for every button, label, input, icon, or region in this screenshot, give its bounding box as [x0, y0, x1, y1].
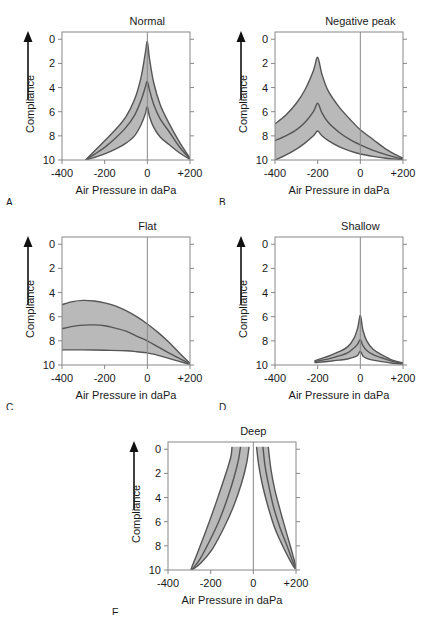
y-tick-label: 4 [262, 287, 268, 299]
curve-group [85, 42, 190, 160]
x-tick-label: 0 [357, 372, 363, 384]
y-axis-title: Compliance [237, 75, 249, 133]
x-axis-title: Air Pressure in daPa [289, 184, 391, 196]
y-tick-label: 6 [49, 311, 55, 323]
y-tick-label: 0 [262, 33, 268, 45]
y-tick-label: 0 [262, 238, 268, 250]
y-axis-title: Compliance [24, 280, 36, 338]
curve-group [191, 447, 297, 570]
x-axis-title: Air Pressure in daPa [289, 389, 391, 401]
x-tick-label: 0 [144, 167, 150, 179]
panel-b: 0246810-400-2000+200Air Pressure in daPa… [213, 0, 426, 205]
x-tick-label: +200 [178, 167, 203, 179]
x-tick-label: -200 [307, 167, 329, 179]
panel-title: Flat [138, 220, 156, 232]
x-tick-label: +200 [284, 577, 309, 589]
band-fill [85, 42, 190, 160]
y-tick-label: 8 [155, 540, 161, 552]
panel-title: Deep [240, 425, 266, 437]
x-tick-label: -200 [307, 372, 329, 384]
panel-letter: D [219, 402, 226, 410]
panel-letter: C [6, 402, 13, 410]
x-tick-label: -400 [264, 372, 286, 384]
panel-letter: A [6, 197, 13, 205]
panel-title: Negative peak [325, 15, 396, 27]
y-tick-label: 0 [155, 443, 161, 455]
y-tick-label: 0 [49, 238, 55, 250]
y-tick-label: 8 [262, 130, 268, 142]
x-tick-label: -200 [94, 372, 116, 384]
y-tick-label: 10 [43, 359, 55, 371]
y-tick-label: 4 [262, 82, 268, 94]
x-tick-label: 0 [144, 372, 150, 384]
x-tick-label: -400 [264, 167, 286, 179]
x-tick-label: -200 [200, 577, 222, 589]
x-tick-label: 0 [250, 577, 256, 589]
y-tick-label: 6 [262, 311, 268, 323]
y-tick-label: 2 [49, 57, 55, 69]
y-tick-label: 4 [49, 287, 55, 299]
y-tick-label: 10 [256, 154, 268, 166]
y-axis-title: Compliance [130, 485, 142, 543]
x-tick-label: -400 [51, 372, 73, 384]
y-tick-label: 8 [262, 335, 268, 347]
band-fill [257, 447, 297, 569]
x-tick-label: +200 [391, 167, 416, 179]
x-tick-label: -400 [157, 577, 179, 589]
x-axis-title: Air Pressure in daPa [76, 184, 178, 196]
panel-letter: E [112, 607, 119, 615]
panel-title: Shallow [341, 220, 380, 232]
x-axis-title: Air Pressure in daPa [76, 389, 178, 401]
panel-d: 0246810-400-2000+200Air Pressure in daPa… [213, 205, 426, 410]
y-tick-label: 10 [149, 564, 161, 576]
y-tick-label: 0 [49, 33, 55, 45]
panel-a: 0246810-400-2000+200Air Pressure in daPa… [0, 0, 213, 205]
x-tick-label: -200 [94, 167, 116, 179]
y-tick-label: 2 [262, 262, 268, 274]
x-tick-label: +200 [178, 372, 203, 384]
band-fill [191, 447, 249, 570]
y-tick-label: 8 [49, 335, 55, 347]
plot-frame [275, 237, 403, 365]
y-tick-label: 10 [43, 154, 55, 166]
x-tick-label: -400 [51, 167, 73, 179]
y-tick-label: 4 [49, 82, 55, 94]
panel-e: 0246810-400-2000+200Air Pressure in daPa… [106, 410, 319, 615]
y-tick-label: 10 [256, 359, 268, 371]
panel-title: Normal [130, 15, 165, 27]
y-tick-label: 2 [155, 467, 161, 479]
panel-c: 0246810-400-2000+200Air Pressure in daPa… [0, 205, 213, 410]
x-tick-label: 0 [357, 167, 363, 179]
x-tick-label: +200 [391, 372, 416, 384]
curve-group [62, 300, 190, 364]
panel-letter: B [219, 197, 226, 205]
y-tick-label: 2 [49, 262, 55, 274]
y-tick-label: 4 [155, 492, 161, 504]
y-axis-title: Compliance [237, 280, 249, 338]
y-tick-label: 2 [262, 57, 268, 69]
curve-group [314, 315, 403, 364]
curve-group [275, 57, 403, 160]
y-tick-label: 8 [49, 130, 55, 142]
y-tick-label: 6 [155, 516, 161, 528]
y-tick-label: 6 [262, 106, 268, 118]
x-axis-title: Air Pressure in daPa [182, 594, 284, 606]
y-axis-title: Compliance [24, 75, 36, 133]
band-fill [275, 57, 403, 160]
y-tick-label: 6 [49, 106, 55, 118]
